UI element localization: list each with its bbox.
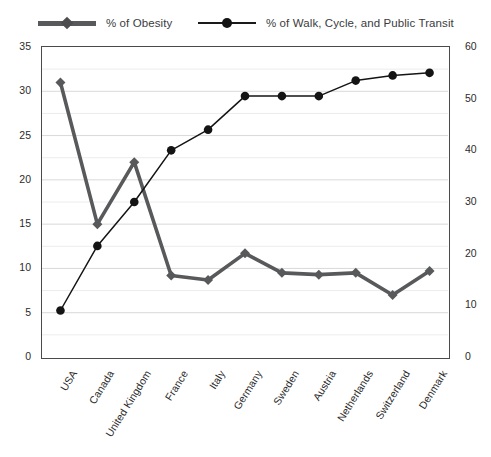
left-axis-tick-35: 35 [19,41,31,52]
left-axis-tick-5: 5 [25,307,31,318]
right-axis-tick-30: 30 [465,196,477,207]
right-axis-tick-50: 50 [465,93,477,104]
legend-line-transit [198,22,256,24]
left-axis-tick-20: 20 [19,174,31,185]
plot-svg [42,47,448,357]
right-axis-tick-10: 10 [465,299,477,310]
chart-legend: % of Obesity % of Walk, Cycle, and Publi… [0,10,491,36]
category-label-canada: Canada [87,368,117,406]
category-label-sweden: Sweden [270,368,301,407]
plot-area [41,46,450,359]
category-label-france: France [163,368,191,403]
left-axis-tick-25: 25 [19,130,31,141]
chart-container: % of Obesity % of Walk, Cycle, and Publi… [0,0,491,457]
left-axis-tick-15: 15 [19,218,31,229]
legend-item-obesity: % of Obesity [38,10,172,36]
category-label-usa: USA [58,368,80,393]
circle-marker-icon [222,18,232,28]
category-label-germany: Germany [231,368,264,412]
category-label-netherlands: Netherlands [334,368,375,423]
left-axis-tick-10: 10 [19,262,31,273]
category-axis-labels: USACanadaUnited KingdomFranceItalyGerman… [0,359,491,457]
right-axis-tick-40: 40 [465,144,477,155]
category-label-austria: Austria [310,368,338,403]
right-axis-tick-60: 60 [465,41,477,52]
category-label-italy: Italy [207,368,228,391]
legend-line-obesity [38,21,96,26]
right-axis-tick-20: 20 [465,248,477,259]
left-axis-tick-30: 30 [19,85,31,96]
legend-label-obesity: % of Obesity [106,17,172,29]
legend-label-transit: % of Walk, Cycle, and Public Transit [266,17,454,29]
category-label-denmark: Denmark [416,368,449,411]
category-label-switzerland: Switzerland [372,368,412,421]
legend-item-transit: % of Walk, Cycle, and Public Transit [198,10,454,36]
diamond-marker-icon [61,17,74,30]
